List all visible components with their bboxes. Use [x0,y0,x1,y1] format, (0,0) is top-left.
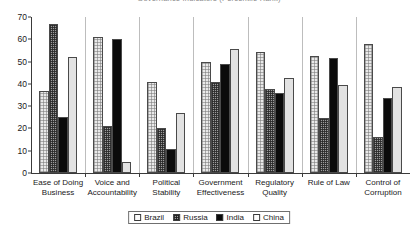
x-label-line2: Business [31,188,85,198]
x-label-line2: Corruption [356,188,410,198]
bar-china [230,49,240,173]
bar-brazil [310,56,320,173]
legend-swatch-china [253,214,260,221]
x-label-0: Ease of DoingBusiness [31,178,85,198]
chart-title: Governance Indicators (Percentile Rank) [0,0,418,3]
bar-group [31,17,85,173]
bar-russia [211,82,221,173]
bar-chart: Governance Indicators (Percentile Rank) … [0,0,418,237]
x-tick-mark [248,173,249,177]
x-label-1: Voice andAccountability [85,178,139,198]
bar-india [220,64,230,173]
bar-group [302,17,356,173]
bar-brazil [39,91,49,173]
x-label-4: RegulatoryQuality [248,178,302,198]
bar-india [383,98,393,173]
bar-china [122,162,132,173]
bar-russia [319,118,329,173]
x-axis-category-labels: Ease of DoingBusinessVoice andAccountabi… [31,178,410,202]
legend-label-china: China [263,213,284,222]
legend-item-russia[interactable]: Russia [173,213,207,222]
x-tick-mark [302,173,303,177]
legend-item-brazil[interactable]: Brazil [134,213,164,222]
bar-brazil [93,37,103,173]
legend-item-india[interactable]: India [217,213,244,222]
bar-brazil [364,44,374,173]
bar-russia [103,126,113,173]
x-tick-mark [85,173,86,177]
bar-group [85,17,139,173]
x-tick-mark [139,173,140,177]
bar-china [176,113,186,173]
bar-group [193,17,247,173]
x-label-line2: Accountability [85,188,139,198]
bar-india [329,58,339,173]
legend-label-brazil: Brazil [144,213,164,222]
bar-group [248,17,302,173]
bar-china [68,57,78,173]
bar-group [139,17,193,173]
bar-russia [49,24,59,173]
bar-group [356,17,410,173]
x-label-line1: Voice and [85,178,139,188]
bar-russia [373,137,383,173]
x-label-line2: Stability [139,188,193,198]
legend-swatch-russia [173,214,180,221]
x-label-line1: Political [139,178,193,188]
chart-legend: BrazilRussiaIndiaChina [128,211,290,224]
x-axis-line [31,173,410,174]
bar-india [58,117,68,173]
x-label-line2: Effectiveness [193,188,247,198]
bar-brazil [147,82,157,173]
x-label-line1: Regulatory [248,178,302,188]
bar-russia [265,89,275,173]
plot-area [31,17,410,173]
bar-china [338,85,348,173]
x-label-line1: Control of [356,178,410,188]
legend-label-india: India [227,213,244,222]
x-label-line2: Quality [248,188,302,198]
x-label-3: GovernmentEffectiveness [193,178,247,198]
bar-brazil [256,52,266,173]
legend-item-china[interactable]: China [253,213,284,222]
bar-brazil [201,62,211,173]
legend-swatch-india [217,214,224,221]
bar-china [392,87,402,173]
x-label-5: Rule of Law [302,178,356,188]
bar-india [275,93,285,173]
bar-india [112,39,122,173]
x-label-6: Control ofCorruption [356,178,410,198]
bar-india [166,149,176,174]
x-tick-mark [193,173,194,177]
legend-swatch-brazil [134,214,141,221]
bar-russia [157,128,167,173]
x-label-line1: Ease of Doing [31,178,85,188]
legend-label-russia: Russia [183,213,207,222]
x-label-2: PoliticalStability [139,178,193,198]
x-label-line1: Government [193,178,247,188]
x-tick-mark [356,173,357,177]
x-label-line1: Rule of Law [302,178,356,188]
bar-china [284,78,294,173]
